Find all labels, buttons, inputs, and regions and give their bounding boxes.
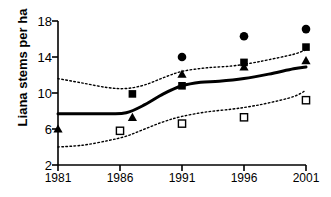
marker-open-square-1991 xyxy=(178,120,185,127)
marker-open-square-1986 xyxy=(116,127,123,134)
lower-confidence-limit xyxy=(58,90,306,147)
x-axis-ticks xyxy=(58,165,306,171)
marker-filled-square-2001 xyxy=(302,43,310,51)
y-axis-ticks xyxy=(52,21,58,165)
marker-filled-circle-1996 xyxy=(240,32,249,41)
confidence-bands xyxy=(58,50,306,147)
marker-open-square-2001 xyxy=(302,97,309,104)
marker-filled-square-1991 xyxy=(178,82,186,90)
marker-filled-square-1987 xyxy=(129,90,137,98)
marker-filled-triangle-1987 xyxy=(128,113,137,121)
marker-filled-triangle-2001 xyxy=(301,56,310,64)
marker-filled-circle-2001 xyxy=(302,25,311,34)
chart-container: Liana stems per ha 18 14 10 6 2 1981 198… xyxy=(0,0,331,197)
data-markers xyxy=(53,25,310,135)
marker-filled-circle-1991 xyxy=(178,53,187,62)
plot-area xyxy=(0,0,331,197)
marker-open-square-1996 xyxy=(240,114,247,121)
marker-filled-triangle-1991 xyxy=(177,70,186,78)
